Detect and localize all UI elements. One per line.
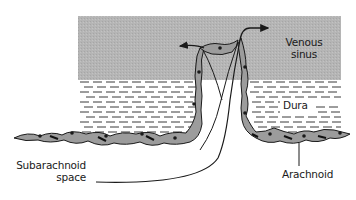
subarachnoid-label-line2: space [14,171,86,183]
cell-nuclei-left [38,70,201,140]
subarachnoid-label-line1: Subarachnoid [14,159,86,171]
venous-sinus-label-line1: Venous [279,36,329,48]
venous-sinus-label-line2: sinus [279,48,329,60]
dura-label: Dura [283,99,308,111]
venous-sinus-label: Venous sinus [279,36,329,60]
arachnoid-villus-diagram: Venous sinus Dura Subarachnoid space Ara… [0,0,356,200]
subarachnoid-space-label: Subarachnoid space [14,159,86,183]
arachnoid-label: Arachnoid [282,168,333,180]
